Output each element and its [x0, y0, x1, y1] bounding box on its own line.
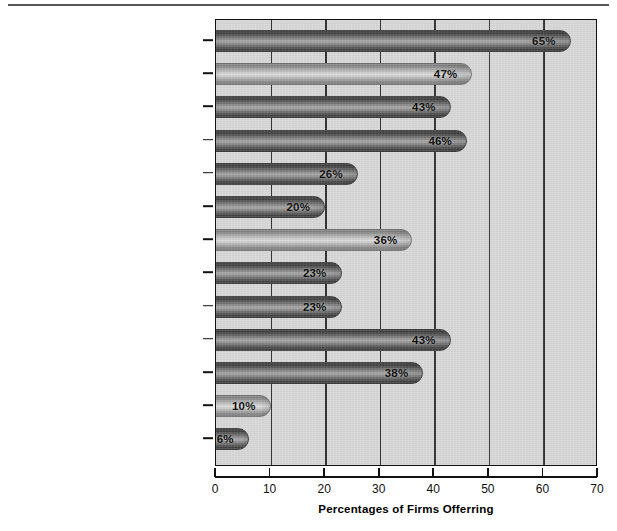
x-tick-50: [487, 468, 489, 477]
x-tick-10: [269, 468, 271, 477]
bar: 10%: [215, 395, 271, 417]
bar: 36%: [215, 229, 412, 251]
category-tick-mark: [203, 371, 213, 373]
bar: 38%: [215, 362, 423, 384]
x-tick-label-60: 60: [536, 482, 549, 496]
category-tick-mark: [203, 338, 213, 340]
bar: 23%: [215, 296, 342, 318]
category-tick-mark: [203, 238, 213, 240]
x-tick-0: [214, 468, 216, 477]
bar-value-label: 6%: [217, 433, 234, 445]
category-tick-mark: [203, 205, 213, 207]
bar-value-label: 36%: [374, 234, 398, 246]
bar-value-label: 43%: [412, 334, 436, 346]
x-tick-20: [323, 468, 325, 477]
bar-value-label: 23%: [303, 267, 327, 279]
bar: 43%: [215, 96, 451, 118]
bar-value-label: 47%: [434, 68, 458, 80]
x-tick-60: [542, 468, 544, 477]
bar: 20%: [215, 196, 325, 218]
x-tick-label-50: 50: [481, 482, 494, 496]
bar-chart-figure: 65%47%43%46%26%20%36%23%23%43%38%10%6% A…: [0, 0, 617, 531]
category-tick-mark: [203, 305, 213, 307]
x-tick-40: [432, 468, 434, 477]
bar: 26%: [215, 163, 358, 185]
x-tick-label-20: 20: [317, 482, 330, 496]
x-tick-30: [378, 468, 380, 477]
category-tick-mark: [203, 172, 213, 174]
x-tick-70: [596, 468, 598, 477]
bars-group: 65%47%43%46%26%20%36%23%23%43%38%10%6%: [216, 20, 596, 465]
category-tick-mark: [203, 438, 213, 440]
category-tick-mark: [203, 72, 213, 74]
bar-value-label: 23%: [303, 301, 327, 313]
bar: 46%: [215, 130, 467, 152]
header-divider-rule: [8, 4, 609, 6]
bar: 65%: [215, 30, 571, 52]
bar-value-label: 65%: [532, 35, 556, 47]
x-axis-title: Percentages of Firms Offerring: [215, 503, 597, 515]
plot-area: 65%47%43%46%26%20%36%23%23%43%38%10%6%: [215, 19, 597, 466]
bar: 6%: [215, 428, 249, 450]
x-tick-label-30: 30: [372, 482, 385, 496]
bar-value-label: 38%: [385, 367, 409, 379]
x-tick-label-40: 40: [427, 482, 440, 496]
bar-value-label: 43%: [412, 101, 436, 113]
bar-value-label: 20%: [287, 201, 311, 213]
bar-value-label: 10%: [232, 400, 256, 412]
bar-value-label: 26%: [319, 168, 343, 180]
bar: 23%: [215, 262, 342, 284]
bar: 47%: [215, 63, 472, 85]
x-tick-label-70: 70: [590, 482, 603, 496]
bar-value-label: 46%: [428, 135, 452, 147]
x-tick-label-0: 0: [212, 482, 219, 496]
bar: 43%: [215, 329, 451, 351]
x-tick-label-10: 10: [263, 482, 276, 496]
category-tick-mark: [203, 139, 213, 141]
category-tick-mark: [203, 39, 213, 41]
category-tick-mark: [203, 404, 213, 406]
category-tick-mark: [203, 106, 213, 108]
x-axis-line: [215, 476, 597, 478]
category-tick-mark: [203, 272, 213, 274]
